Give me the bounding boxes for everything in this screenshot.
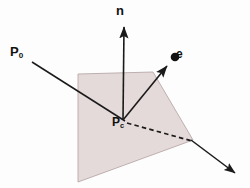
label-eye-vector-e-text: e [176,47,183,61]
label-ray-origin-p0-subscript: 0 [19,51,23,60]
shaded-plane [78,72,193,182]
normal-vector-arrow [123,27,124,120]
figure-canvas [0,0,250,188]
geometry-figure: n P0 Pc e [0,0,250,188]
label-normal-n: n [116,4,124,17]
label-intersection-pc: Pc [112,116,124,128]
label-eye-vector-e: e [176,48,183,60]
label-intersection-pc-text: P [112,115,120,129]
transmitted-ray-arrow [191,140,235,173]
label-normal-n-text: n [116,3,124,18]
label-intersection-pc-subscript: c [120,121,124,130]
label-ray-origin-p0-text: P [10,44,19,59]
label-ray-origin-p0: P0 [10,45,23,58]
